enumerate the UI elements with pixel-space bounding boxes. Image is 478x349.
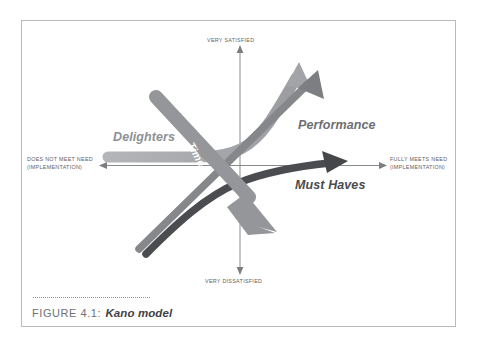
axis-label-fully-meets-need: FULLY MEETS NEED (IMPLEMENTATION): [390, 155, 447, 171]
curve-label-must-haves: Must Haves: [295, 178, 365, 192]
axis-label-does-not-meet-need: DOES NOT MEET NEED (IMPLEMENTATION): [27, 155, 93, 171]
y-axis: [237, 45, 244, 275]
axis-label-left-line2: (IMPLEMENTATION): [27, 163, 93, 171]
figure-page: VERY SATISFIED VERY DISSATISFIED DOES NO…: [0, 0, 478, 349]
axis-label-left-line1: DOES NOT MEET NEED: [27, 155, 93, 163]
caption-figure-number: FIGURE 4.1:: [32, 307, 101, 319]
figure-caption: FIGURE 4.1: Kano model: [32, 303, 172, 321]
axis-label-right-line1: FULLY MEETS NEED: [390, 155, 447, 163]
curve-label-delighters: Delighters: [113, 130, 175, 144]
axis-label-right-line2: (IMPLEMENTATION): [390, 163, 447, 171]
caption-dotted-rule: [33, 297, 150, 298]
curve-label-performance: Performance: [298, 118, 376, 132]
caption-title: Kano model: [105, 307, 172, 319]
axis-label-very-satisfied: VERY SATISFIED: [207, 36, 254, 44]
axis-label-very-dissatisfied: VERY DISSATISFIED: [205, 277, 262, 285]
